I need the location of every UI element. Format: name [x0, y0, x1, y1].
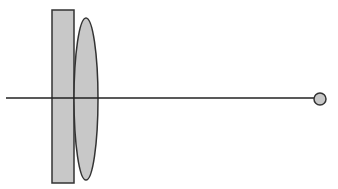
flat-plate [52, 10, 74, 183]
optics-diagram [0, 0, 338, 189]
point-source [314, 93, 326, 105]
convex-lens [74, 18, 98, 180]
